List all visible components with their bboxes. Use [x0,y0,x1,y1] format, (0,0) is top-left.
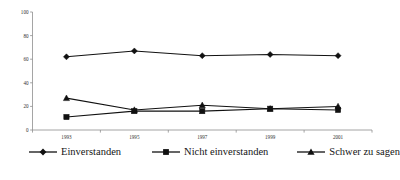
legend-item-schwer-zu-sagen: Schwer zu sagen [296,146,400,158]
data-point [335,53,341,59]
y-tick-label: 40 [23,80,29,86]
x-tick-label: 1997 [197,134,208,140]
x-tick-label: 2001 [333,134,344,140]
legend-item-nicht-einverstanden: Nicht einverstanden [151,146,268,158]
y-tick-label: 60 [23,56,29,62]
y-axis: 020406080100 [21,9,33,133]
data-point [64,114,69,119]
data-point [63,95,69,101]
legend-item-einverstanden: Einverstanden [28,146,121,158]
y-tick-label: 80 [23,33,29,39]
legend-label-schwer-zu-sagen: Schwer zu sagen [329,146,400,158]
x-tick-label: 1993 [61,134,72,140]
chart-legend: Einverstanden Nicht einverstanden Schwer… [0,146,397,174]
series-group [63,48,341,120]
plot-area: 020406080100 19931995199719992001 [0,0,397,142]
data-point [131,48,137,54]
data-point [199,53,205,59]
plot-svg: 020406080100 19931995199719992001 [0,0,397,142]
data-point [200,108,205,113]
x-tick-label: 1999 [265,134,276,140]
legend-label-einverstanden: Einverstanden [61,146,121,158]
x-tick-label: 1995 [129,134,140,140]
legend-label-nicht-einverstanden: Nicht einverstanden [184,146,268,158]
y-tick-label: 0 [26,127,29,133]
y-tick-label: 20 [23,103,29,109]
legend-square-marker-icon [151,146,181,158]
data-point [63,54,69,60]
data-point [267,51,273,57]
y-tick-label: 100 [21,9,29,15]
series-einverstanden [63,48,341,60]
legend-triangle-marker-icon [296,146,326,158]
x-axis: 19931995199719992001 [33,130,373,140]
legend-diamond-marker-icon [28,146,58,158]
